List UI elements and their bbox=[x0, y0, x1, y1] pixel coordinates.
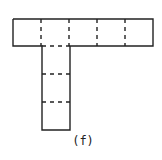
figure-label: (f) bbox=[0, 134, 162, 148]
fold-lines bbox=[41, 19, 125, 102]
net-outline bbox=[13, 19, 153, 130]
